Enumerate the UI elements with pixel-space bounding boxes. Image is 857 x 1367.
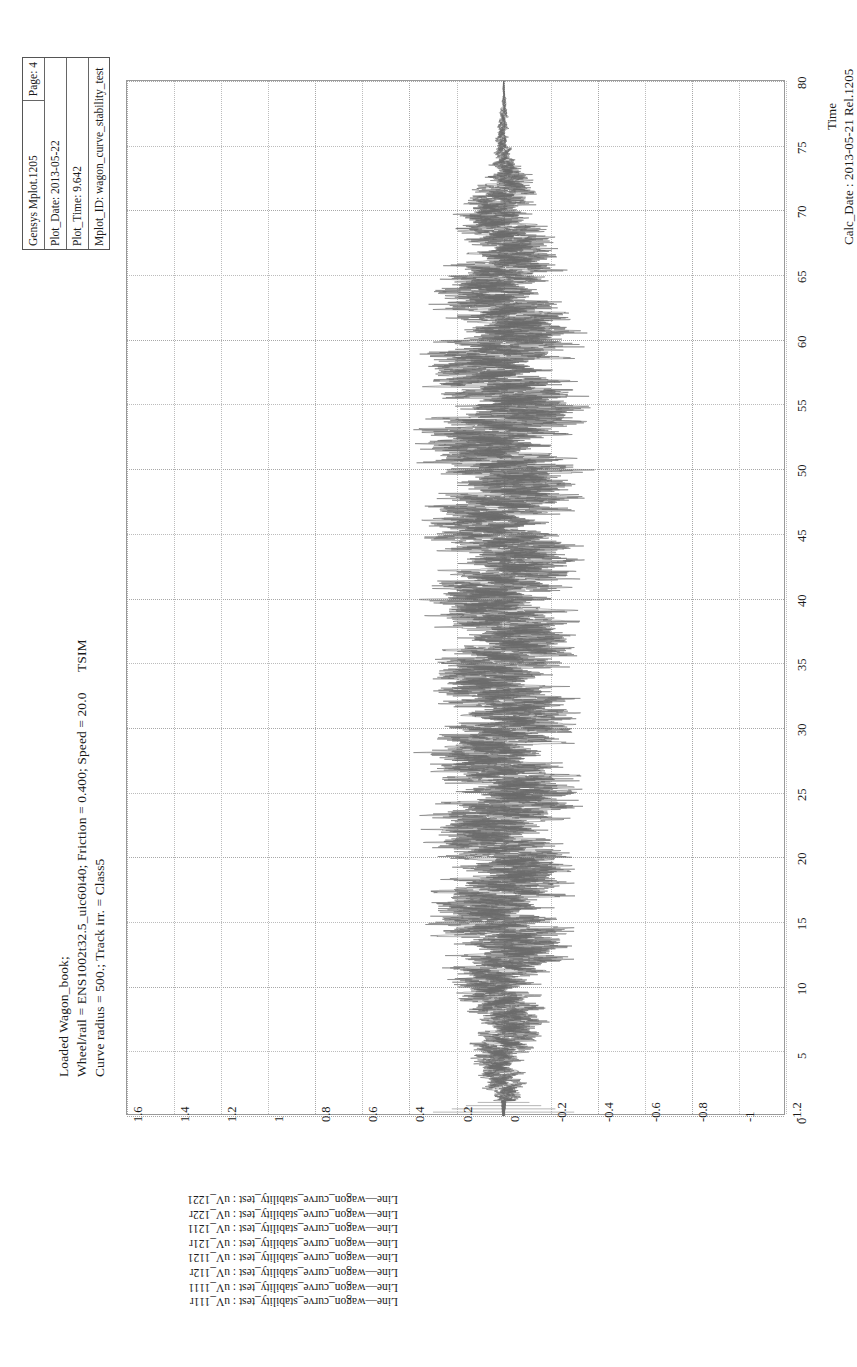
y-tick-label-1_6: 1.6 [131,1106,146,1122]
subtitle-line-2: Wheel/rail = ENS1002t32.5_uic60i40; Fric… [74,692,90,1077]
y-tick-label-neg0_4: -0.4 [602,1102,617,1122]
trace-lines [127,81,786,1116]
y-tick-label-0_2: 0.2 [461,1106,476,1122]
y-tick-label-1: 1 [272,1116,287,1122]
legend-item: Line—wagon_curve_stability_test : uV_112… [98,1250,398,1265]
legend-item: Line—wagon_curve_stability_test : uV_122… [98,1207,398,1222]
y-tick-label-neg0_6: -0.6 [649,1102,664,1122]
info-mplot-version: Gensys Mplot.1205 [27,155,39,246]
x-tick-label-65: 65 [795,271,810,284]
info-row-mplot-id: Mplot_ID: wagon_curve_stability_test [89,58,111,249]
info-row-plot-date: Plot_Date: 2013-05-22 [45,58,67,249]
x-tick-label-5: 5 [795,1053,810,1059]
info-plot-date: Plot_Date: 2013-05-22 [49,140,61,246]
y-tick-label-neg1: -1 [743,1112,758,1122]
subtitle-line-1: Loaded Wagon_book; [56,956,72,1077]
x-tick-label-60: 60 [795,335,810,348]
x-tick-label-80: 80 [795,77,810,90]
x-tick-label-30: 30 [795,723,810,736]
info-mplot-id: Mplot_ID: wagon_curve_stability_test [93,67,105,246]
x-tick-label-75: 75 [795,141,810,154]
legend-item: Line—wagon_curve_stability_test : uV_111… [98,1294,398,1309]
x-tick-label-40: 40 [795,594,810,607]
legend-item: Line—wagon_curve_stability_test : uV_121… [98,1236,398,1251]
plot-area [126,80,785,1115]
legend-item: Line—wagon_curve_stability_test : uV_122… [98,1192,398,1207]
y-tick-label-neg0_8: -0.8 [696,1102,711,1122]
page-label: Page: 4 [23,58,44,101]
x-tick-label-45: 45 [795,529,810,542]
x-tick-label-10: 10 [795,982,810,995]
x-tick-label-25: 25 [795,788,810,801]
info-row-mplot-version: Gensys Mplot.1205 Page: 4 [23,58,45,249]
info-plot-time: Plot_Time: 9.642 [71,166,83,246]
y-tick-label-neg1_2: -1.2 [790,1102,805,1122]
x-tick-label-50: 50 [795,465,810,478]
x-axis-label: Time [824,103,840,130]
info-row-plot-time: Plot_Time: 9.642 [67,58,89,249]
y-tick-label-0_8: 0.8 [319,1106,334,1122]
legend-item: Line—wagon_curve_stability_test : uV_112… [98,1265,398,1280]
plot-info-box: Gensys Mplot.1205 Page: 4 Plot_Date: 201… [22,57,110,250]
legend: Line—wagon_curve_stability_test : uV_122… [98,1192,398,1309]
y-tick-label-1_2: 1.2 [225,1106,240,1122]
x-tick-label-70: 70 [795,206,810,219]
chart-title: TSIM [74,639,90,672]
x-tick-label-35: 35 [795,659,810,672]
x-tick-label-15: 15 [795,917,810,930]
gridline-value--1_2 [786,81,787,1114]
x-tick-label-20: 20 [795,853,810,866]
legend-item: Line—wagon_curve_stability_test : uV_111… [98,1280,398,1295]
legend-item: Line—wagon_curve_stability_test : uV_121… [98,1221,398,1236]
subtitle-line-3: Curve radius = 500.; Track irr. = Class5 [92,859,108,1077]
y-tick-label-0: 0 [508,1116,523,1122]
y-tick-label-1_4: 1.4 [178,1106,193,1122]
y-tick-label-neg0_2: -0.2 [555,1102,570,1122]
y-tick-label-0_6: 0.6 [366,1106,381,1122]
y-tick-label-0_4: 0.4 [413,1106,428,1122]
calc-date-label: Calc_Date : 2013-05-21 Rel.1205 [841,69,857,245]
x-tick-label-55: 55 [795,400,810,413]
